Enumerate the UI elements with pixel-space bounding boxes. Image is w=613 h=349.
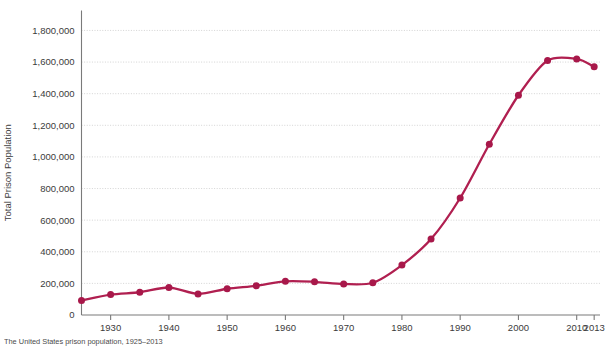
gridlines-group [82,30,601,283]
x-tick-label: 1960 [275,322,296,333]
data-point-marker [369,279,376,286]
y-tick-label: 1,200,000 [32,120,74,131]
y-tick-label: 200,000 [40,278,74,289]
y-tick-label: 1,400,000 [32,88,74,99]
data-point-marker [195,290,202,297]
data-point-marker [311,278,318,285]
data-point-marker [78,297,85,304]
x-axis-tick-labels: 1930194019501960197019801990200020102013 [100,322,605,333]
y-axis-title: Total Prison Population [2,124,13,221]
x-axis-tick-marks [111,315,595,320]
data-point-marker [486,141,493,148]
x-tick-label: 1970 [333,322,354,333]
y-tick-label: 800,000 [40,183,74,194]
x-tick-label: 1980 [391,322,412,333]
data-point-marker [457,195,464,202]
prison-population-line-chart: 0200,000400,000600,000800,0001,000,0001,… [0,0,613,349]
y-tick-label: 1,600,000 [32,56,74,67]
x-tick-label: 2013 [584,322,605,333]
y-tick-label: 0 [69,309,74,320]
data-point-marker [398,262,405,269]
y-tick-label: 400,000 [40,246,74,257]
x-tick-label: 1990 [450,322,471,333]
chart-figure: 0200,000400,000600,000800,0001,000,0001,… [0,0,613,349]
data-point-marker [282,278,289,285]
y-tick-label: 1,000,000 [32,151,74,162]
data-point-marker [515,92,522,99]
y-tick-label: 1,800,000 [32,25,74,36]
data-point-markers [78,55,598,304]
data-point-marker [107,291,114,298]
data-point-marker [224,285,231,292]
data-point-marker [591,63,598,70]
data-point-marker [340,281,347,288]
x-tick-label: 1930 [100,322,121,333]
figure-caption: The United States prison population, 192… [4,337,609,348]
data-point-marker [544,57,551,64]
data-point-marker [165,284,172,291]
x-tick-label: 1950 [217,322,238,333]
data-point-marker [136,289,143,296]
y-axis-tick-labels: 0200,000400,000600,000800,0001,000,0001,… [32,25,74,321]
data-point-marker [573,55,580,62]
y-tick-label: 600,000 [40,215,74,226]
x-tick-label: 2000 [508,322,529,333]
data-point-marker [253,282,260,289]
x-tick-label: 1940 [158,322,179,333]
data-point-marker [428,236,435,243]
